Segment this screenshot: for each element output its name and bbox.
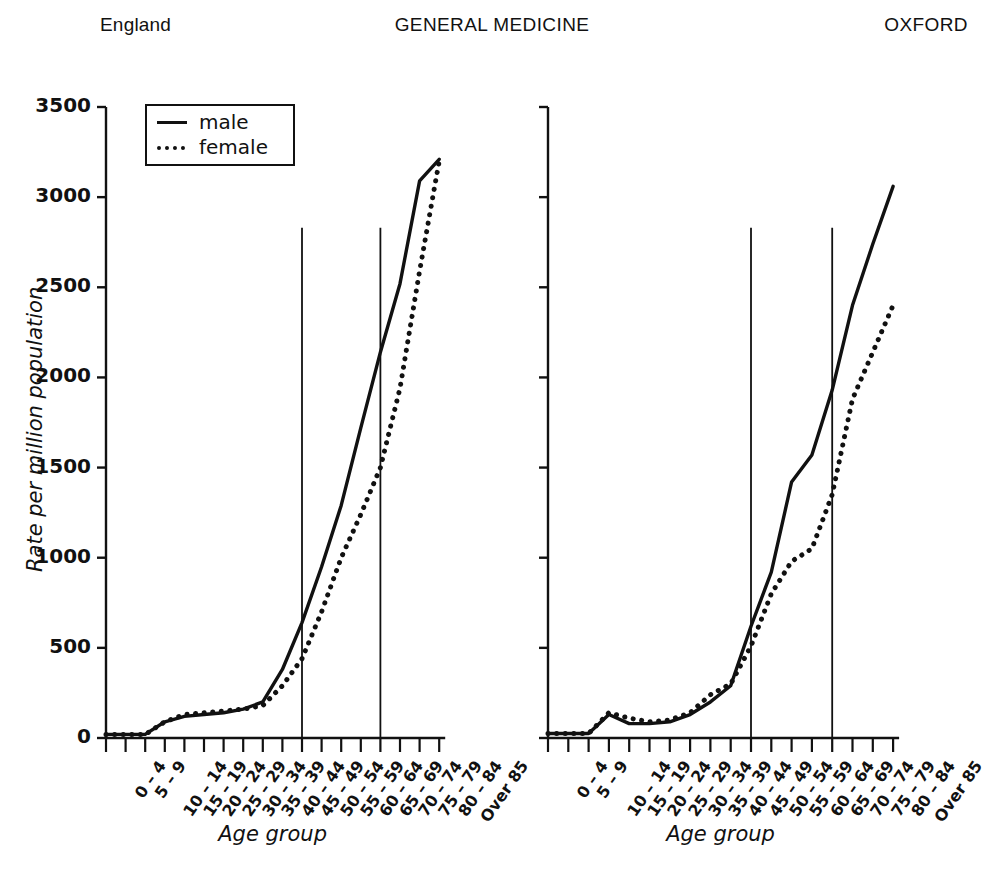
chart-panel-oxford: Age group 0 – 45 – 910 – 1415 – 1920 – 2… bbox=[520, 0, 984, 879]
series-line-female bbox=[548, 305, 893, 733]
solid-line-icon bbox=[155, 115, 189, 129]
y-axis-tick-label: 2500 bbox=[25, 273, 91, 297]
x-axis-title-left: Age group bbox=[133, 822, 413, 846]
plot-area-oxford bbox=[520, 0, 984, 879]
y-axis-tick-label: 1000 bbox=[25, 544, 91, 568]
legend-label-male: male bbox=[199, 110, 249, 134]
dotted-line-icon bbox=[155, 140, 189, 154]
y-axis-tick-label: 3000 bbox=[25, 183, 91, 207]
legend: male female bbox=[145, 104, 295, 166]
chart-panel-england: Rate per million population Age group ma… bbox=[0, 0, 520, 879]
y-axis-tick-label: 2000 bbox=[25, 363, 91, 387]
legend-entry-male: male bbox=[155, 110, 249, 134]
y-axis-tick-label: 1500 bbox=[25, 454, 91, 478]
legend-entry-female: female bbox=[155, 135, 268, 159]
legend-label-female: female bbox=[199, 135, 268, 159]
series-line-male bbox=[548, 186, 893, 733]
x-axis-title-right: Age group bbox=[581, 822, 861, 846]
y-axis-tick-label: 3500 bbox=[25, 93, 91, 117]
series-line-female bbox=[106, 161, 439, 734]
y-axis-tick-label: 0 bbox=[25, 724, 91, 748]
series-line-male bbox=[106, 159, 439, 734]
y-axis-tick-label: 500 bbox=[25, 634, 91, 658]
